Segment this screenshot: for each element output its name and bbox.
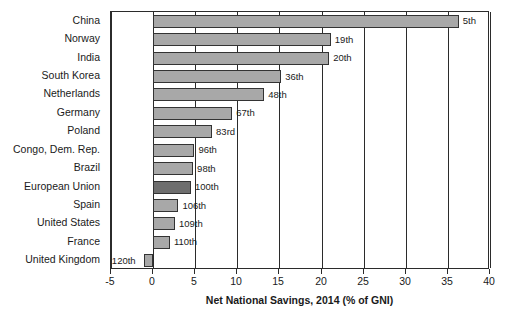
bar [153, 236, 170, 249]
rank-annotation: 120th [112, 256, 136, 266]
bars-layer: 5th19th20th36th48th67th83rd96th98th100th… [111, 12, 488, 268]
rank-annotation: 67th [236, 108, 255, 118]
x-axis-tick [278, 269, 279, 274]
bar [153, 88, 264, 101]
x-axis-tick-label: 15 [272, 275, 284, 287]
rank-annotation: 5th [463, 16, 476, 26]
rank-annotation: 96th [198, 145, 217, 155]
category-label: China [73, 15, 100, 26]
x-axis-tick-marks [110, 269, 489, 274]
rank-annotation: 106th [182, 201, 206, 211]
rank-annotation: 36th [285, 72, 304, 82]
category-label: South Korea [42, 70, 100, 81]
x-axis-tick-label: 0 [149, 275, 155, 287]
category-label: United Kingdom [25, 254, 100, 265]
category-label: Spain [73, 199, 100, 210]
bar [153, 217, 175, 230]
bar [153, 107, 232, 120]
x-axis-tick-label: 25 [357, 275, 369, 287]
rank-annotation: 20th [333, 53, 352, 63]
rank-annotation: 19th [335, 35, 354, 45]
category-label: India [77, 52, 100, 63]
category-axis: ChinaNorwayIndiaSouth KoreaNetherlandsGe… [0, 11, 104, 269]
bar [144, 254, 153, 267]
category-label: Germany [57, 107, 100, 118]
bar [153, 70, 281, 83]
bar [153, 199, 178, 212]
x-axis-tick-label: 5 [191, 275, 197, 287]
x-axis-tick-label: 20 [315, 275, 327, 287]
rank-annotation: 83rd [216, 127, 235, 137]
bar [153, 144, 194, 157]
x-axis-tick-label: -5 [105, 275, 114, 287]
category-label: European Union [24, 181, 100, 192]
rank-annotation: 109th [179, 219, 203, 229]
category-label: France [67, 236, 100, 247]
x-axis-tick [405, 269, 406, 274]
rank-annotation: 100th [195, 182, 219, 192]
bar [153, 52, 329, 65]
x-axis-title: Net National Savings, 2014 (% of GNI) [110, 294, 489, 306]
category-label: Netherlands [43, 88, 100, 99]
bar [153, 125, 212, 138]
gridline [490, 12, 491, 268]
bar [153, 181, 191, 194]
category-label: Poland [67, 125, 100, 136]
x-axis-tick [110, 269, 111, 274]
x-axis-tick-label: 30 [399, 275, 411, 287]
bar [153, 15, 459, 28]
x-axis-tick-label: 40 [483, 275, 495, 287]
category-label: Congo, Dem. Rep. [13, 144, 100, 155]
rank-annotation: 110th [174, 237, 197, 247]
rank-annotation: 98th [197, 164, 216, 174]
bar [153, 162, 193, 175]
bar-chart: ChinaNorwayIndiaSouth KoreaNetherlandsGe… [0, 0, 514, 327]
category-label: United States [37, 217, 100, 228]
x-axis-tick [447, 269, 448, 274]
x-axis-tick [321, 269, 322, 274]
x-axis-tick [194, 269, 195, 274]
x-axis-tick-label: 35 [441, 275, 453, 287]
rank-annotation: 48th [268, 90, 287, 100]
plot-area: 5th19th20th36th48th67th83rd96th98th100th… [110, 11, 489, 269]
x-axis-tick [152, 269, 153, 274]
bar [153, 33, 331, 46]
category-label: Norway [64, 33, 100, 44]
x-axis-tick [363, 269, 364, 274]
x-axis-tick [236, 269, 237, 274]
x-axis-tick-labels: -50510152025303540 [110, 275, 489, 289]
x-axis-tick-label: 10 [230, 275, 242, 287]
category-label: Brazil [74, 162, 100, 173]
x-axis-tick [489, 269, 490, 274]
